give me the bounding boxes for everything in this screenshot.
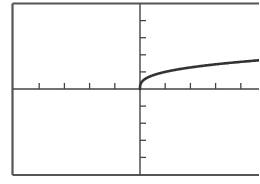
function-graph xyxy=(0,0,259,184)
axes xyxy=(13,4,260,176)
